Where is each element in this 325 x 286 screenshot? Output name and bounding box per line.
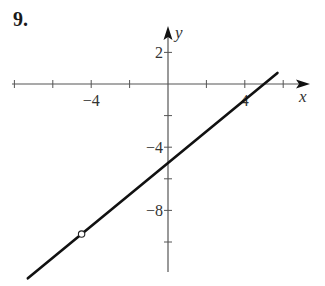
x-tick-label: −4 bbox=[83, 92, 100, 109]
graph: −442−4−8xy bbox=[0, 0, 325, 286]
y-axis-label: y bbox=[173, 23, 183, 42]
open-point-marker bbox=[78, 231, 84, 237]
x-axis-label: x bbox=[298, 87, 307, 106]
y-tick-label: −4 bbox=[146, 139, 163, 156]
line-series bbox=[28, 73, 278, 278]
y-tick-label: 2 bbox=[155, 44, 163, 61]
y-tick-label: −8 bbox=[146, 202, 163, 219]
